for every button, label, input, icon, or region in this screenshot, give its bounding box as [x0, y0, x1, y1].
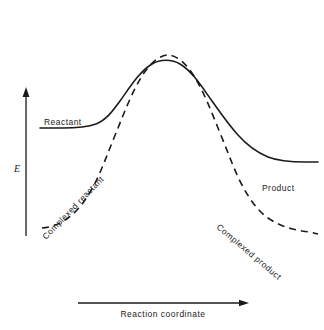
reaction-energy-diagram: Reactant Product Complexed reactant Comp…	[0, 0, 324, 330]
y-axis-arrowhead	[23, 87, 30, 97]
solid-energy-curve	[40, 60, 318, 162]
x-axis	[78, 300, 249, 306]
complexed-product-label: Complexed product	[215, 222, 284, 282]
complexed-reactant-label: Complexed reactant	[40, 174, 106, 242]
product-label: Product	[262, 183, 295, 193]
plot-area: Reactant Product Complexed reactant Comp…	[0, 0, 324, 330]
reactant-label: Reactant	[44, 117, 82, 127]
y-axis	[23, 87, 30, 236]
x-axis-arrowhead	[239, 300, 249, 306]
y-axis-title: E	[13, 163, 20, 174]
dashed-energy-curve	[42, 55, 318, 234]
x-axis-title: Reaction coordinate	[120, 309, 205, 319]
